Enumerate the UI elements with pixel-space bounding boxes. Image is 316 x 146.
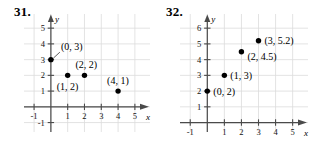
point-label: (3, 5.2): [265, 35, 294, 47]
y-tick-label: 3: [197, 70, 201, 80]
y-axis-label: y: [54, 14, 59, 24]
y-tick-label: 4: [197, 55, 202, 65]
y-tick-label: 6: [197, 23, 201, 33]
data-point[interactable]: [222, 73, 227, 78]
y-tick-label: 5: [197, 39, 201, 49]
x-tick-label: 3: [99, 111, 103, 121]
y-tick-label: 2: [41, 70, 45, 80]
point-label: (2, 2): [75, 59, 97, 71]
point-label: (0, 2): [213, 86, 235, 98]
point-label: (2, 4.5): [247, 51, 276, 63]
x-tick-label: 1: [66, 111, 70, 121]
point-leader-line: [53, 52, 60, 58]
data-point[interactable]: [256, 38, 261, 43]
y-tick-label: 5: [41, 23, 45, 33]
x-tick-label: 5: [133, 111, 137, 121]
data-point[interactable]: [82, 73, 87, 78]
data-points: (0, 3)(1, 2)(2, 2)(4, 1): [48, 41, 129, 94]
x-tick-label: 1: [222, 127, 226, 137]
y-axis-label: y: [210, 14, 215, 24]
x-tick-label: 3: [256, 127, 260, 137]
point-label: (1, 3): [230, 70, 252, 82]
y-tick-label: 4: [41, 39, 46, 49]
y-tick-label: -1: [38, 118, 45, 128]
y-tick-label: 2: [197, 86, 201, 96]
y-axis-arrow: [204, 15, 210, 23]
x-tick-label: 4: [116, 111, 121, 121]
x-tick-label: 2: [239, 127, 243, 137]
x-axis-label: x: [303, 128, 308, 138]
coordinate-plane-32: -112345123456xy(0, 2)(1, 3)(2, 4.5)(3, 5…: [158, 0, 316, 146]
x-tick-label: -1: [187, 127, 194, 137]
figure-32: 32. -112345123456xy(0, 2)(1, 3)(2, 4.5)(…: [158, 0, 316, 146]
point-label: (0, 3): [61, 41, 83, 53]
data-point[interactable]: [115, 88, 120, 93]
x-tick-label: 4: [273, 127, 278, 137]
data-point[interactable]: [48, 57, 53, 62]
y-tick-label: 1: [41, 86, 45, 96]
y-axis-arrow: [48, 15, 54, 23]
coordinate-plane-31: -112345-112345xy(0, 3)(1, 2)(2, 2)(4, 1): [0, 0, 158, 146]
x-axis-arrow: [298, 120, 307, 126]
data-point[interactable]: [239, 49, 244, 54]
data-point[interactable]: [65, 73, 70, 78]
y-tick-label: 3: [41, 55, 45, 65]
x-tick-label: 5: [291, 127, 295, 137]
x-tick-label: 2: [82, 111, 86, 121]
point-label: (4, 1): [107, 75, 129, 87]
point-label: (1, 2): [57, 81, 79, 93]
y-tick-label: 1: [197, 102, 201, 112]
data-point[interactable]: [205, 88, 210, 93]
x-axis-label: x: [145, 112, 150, 122]
x-axis-arrow: [140, 104, 149, 110]
figure-31: 31. -112345-112345xy(0, 3)(1, 2)(2, 2)(4…: [0, 0, 158, 146]
x-tick-label: -1: [31, 111, 38, 121]
